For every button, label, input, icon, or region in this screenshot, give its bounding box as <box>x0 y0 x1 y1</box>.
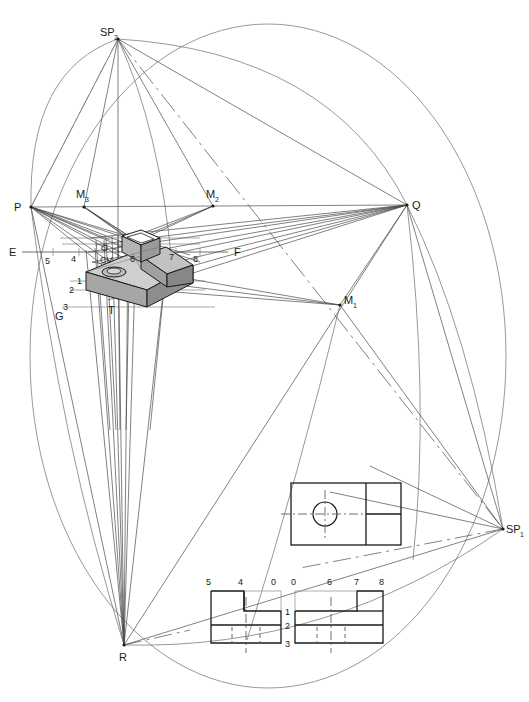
point-M2 <box>211 204 214 207</box>
scale-mark-3: 3 <box>63 302 68 312</box>
point-M1 <box>338 303 341 306</box>
side-view-label-0: 0 <box>291 577 296 587</box>
label-R: R <box>119 651 127 663</box>
label-M2-sub: 2 <box>215 196 219 203</box>
scale-mark-8: 8 <box>193 254 198 264</box>
label-M3-sub: 3 <box>85 196 89 203</box>
point-SP1 <box>501 527 504 530</box>
label-E: E <box>9 246 16 258</box>
side-view-light-edges <box>295 591 357 611</box>
front-view-label-5: 5 <box>206 577 211 587</box>
main-construction-circle <box>30 24 506 688</box>
front-view-label-4: 4 <box>238 577 243 587</box>
label-T: T <box>108 304 115 316</box>
scale-mark-5: 5 <box>45 256 50 266</box>
side-view <box>295 591 383 643</box>
label-P: P <box>14 201 21 213</box>
side-view-label-7: 7 <box>354 577 359 587</box>
scale-mark-2: 2 <box>69 285 74 295</box>
front-view-label-3: 3 <box>285 639 290 649</box>
label-SP1: SP 1 <box>506 523 524 538</box>
label-M1: M 1 <box>344 294 357 309</box>
point-markers <box>29 37 504 646</box>
label-SP2-sub: 2 <box>114 34 118 41</box>
front-view-light-edges <box>244 591 281 611</box>
scale-mark-4: 4 <box>71 254 76 264</box>
scale-mark-7: 7 <box>169 252 174 262</box>
construction-lines <box>31 39 503 645</box>
label-Q: Q <box>412 199 421 211</box>
side-view-label-8: 8 <box>379 577 384 587</box>
front-view-label-2: 2 <box>285 621 290 631</box>
point-R <box>122 643 125 646</box>
front-view-label-0: 0 <box>271 577 276 587</box>
perspective-block <box>86 230 193 307</box>
label-M1-sub: 1 <box>353 302 357 309</box>
point-P <box>29 205 32 208</box>
label-O: O <box>101 243 108 253</box>
label-M3-base: M <box>76 188 85 200</box>
front-view-label-1: 1 <box>285 607 290 617</box>
technical-drawing-canvas: SP 2 SP 1 P Q R M 1 M 2 M 3 E F G T O CV… <box>0 0 529 702</box>
label-SP2-base: SP <box>100 26 115 38</box>
label-F: F <box>234 246 241 258</box>
label-CV: CV <box>100 255 113 265</box>
side-view-label-6: 6 <box>327 577 332 587</box>
point-Q <box>405 203 408 206</box>
label-M2-base: M <box>206 188 215 200</box>
scale-mark-6: 6 <box>130 254 135 264</box>
label-M2: M 2 <box>206 188 219 203</box>
label-SP1-base: SP <box>506 523 521 535</box>
label-SP2: SP 2 <box>100 26 118 41</box>
label-M1-base: M <box>344 294 353 306</box>
point-M3 <box>82 205 85 208</box>
scale-mark-1: 1 <box>77 276 82 286</box>
drawing-sheet: SP 2 SP 1 P Q R M 1 M 2 M 3 E F G T O CV… <box>0 0 529 702</box>
label-SP1-sub: 1 <box>520 531 524 538</box>
